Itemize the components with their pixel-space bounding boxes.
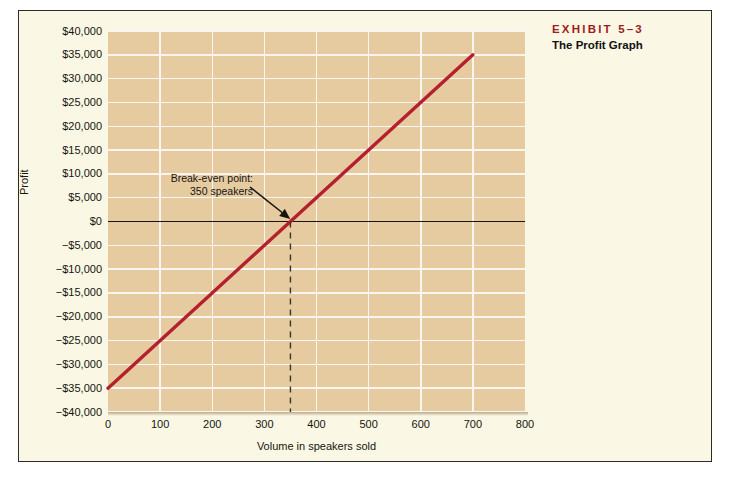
x-axis-tick-label: 400	[292, 419, 342, 430]
x-axis-tick-label: 300	[239, 419, 289, 430]
y-axis-tick-label: −$5,000	[22, 240, 102, 251]
x-axis-tick-label: 800	[500, 419, 550, 430]
plot-shadow	[108, 412, 528, 416]
x-axis-tick-label: 100	[135, 419, 185, 430]
profit-graph-chart: $40,000$35,000$30,000$25,000$20,000$15,0…	[0, 0, 732, 483]
y-axis-tick-label: $25,000	[22, 97, 102, 108]
y-axis-tick-label: −$40,000	[22, 407, 102, 418]
plot-area	[108, 31, 525, 412]
y-axis-tick-label: −$35,000	[22, 383, 102, 394]
y-axis-tick-label: −$10,000	[22, 264, 102, 275]
y-axis-tick-label: $30,000	[22, 73, 102, 84]
y-axis-tick-label: $5,000	[22, 192, 102, 203]
x-axis-tick-label: 700	[448, 419, 498, 430]
x-axis-tick-label: 200	[187, 419, 237, 430]
x-axis-tick-label: 500	[344, 419, 394, 430]
x-axis-title: Volume in speakers sold	[108, 440, 525, 452]
y-axis-tick-label: $40,000	[22, 26, 102, 37]
break-even-annotation-line1: Break-even point:	[148, 172, 253, 185]
y-axis-tick-label: −$15,000	[22, 287, 102, 298]
zero-profit-line	[108, 221, 525, 223]
y-axis-tick-label: −$30,000	[22, 359, 102, 370]
y-axis-tick-label: −$25,000	[22, 335, 102, 346]
x-axis-tick-label: 600	[396, 419, 446, 430]
exhibit-page: EXHIBIT 5–3 The Profit Graph $40,000$35,…	[0, 0, 732, 483]
break-even-annotation-line2: 350 speakers	[148, 185, 253, 198]
y-axis-tick-label: $15,000	[22, 145, 102, 156]
y-axis-tick-label: $0	[22, 216, 102, 227]
x-axis-tick-label: 0	[83, 419, 133, 430]
y-axis-tick-label: $10,000	[22, 168, 102, 179]
y-axis-tick-label: $20,000	[22, 121, 102, 132]
y-axis-tick-label: $35,000	[22, 49, 102, 60]
y-axis-tick-label: −$20,000	[22, 311, 102, 322]
break-even-annotation: Break-even point: 350 speakers	[148, 172, 253, 198]
y-axis-title: Profit	[18, 169, 30, 195]
